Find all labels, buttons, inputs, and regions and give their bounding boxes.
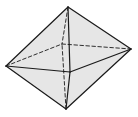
octahedron-diagram [0, 0, 138, 117]
